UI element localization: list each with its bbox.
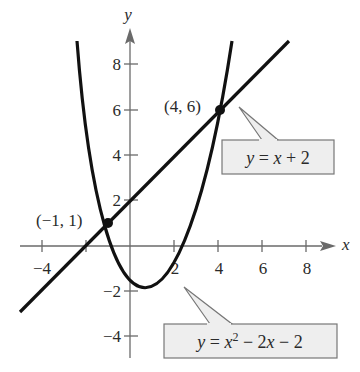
point-label: (−1, 1) <box>36 211 82 230</box>
svg-text:y = x2 − 2x − 2: y = x2 − 2x − 2 <box>195 330 302 352</box>
y-tick-label: 8 <box>113 55 122 74</box>
line-equation-callout: y = x + 2 <box>222 107 334 174</box>
x-axis-label: x <box>341 235 350 254</box>
point-label: (4, 6) <box>164 97 201 116</box>
y-tick-label: −2 <box>103 282 121 301</box>
y-tick-label: −4 <box>103 327 122 346</box>
x-tick-label: 8 <box>303 259 312 278</box>
axes <box>20 36 322 358</box>
x-tick-label: 6 <box>259 259 268 278</box>
y-tick-label: 6 <box>113 101 122 120</box>
intersection-point <box>215 105 225 115</box>
y-tick-label: 4 <box>113 146 122 165</box>
line-series <box>20 41 289 312</box>
y-tick-label: 2 <box>113 191 122 210</box>
parabola-equation-callout: y = x2 − 2x − 2 <box>164 287 337 358</box>
y-axis-label: y <box>122 5 132 24</box>
x-tick-label: −4 <box>33 259 52 278</box>
x-axis-arrow-icon <box>320 241 336 251</box>
parabola-series <box>77 41 232 288</box>
graph: −4 2 4 6 8 8 6 4 2 −2 −4 x y (−1, 1) (4,… <box>0 0 360 372</box>
x-tick-label: 4 <box>215 259 224 278</box>
intersection-point <box>103 218 113 228</box>
svg-text:y = x + 2: y = x + 2 <box>244 148 309 168</box>
